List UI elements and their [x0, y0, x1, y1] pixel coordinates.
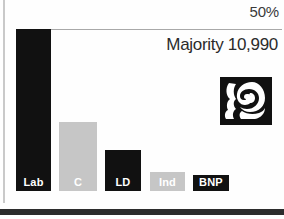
- bar-label-bnp: BNP: [193, 176, 229, 188]
- plot-area: Lab C LD Ind BNP: [0, 0, 284, 191]
- bar-bnp: BNP: [193, 175, 229, 191]
- bar-ind: Ind: [150, 172, 185, 191]
- bar-label-ld: LD: [105, 176, 141, 188]
- bar-c: C: [59, 122, 97, 191]
- bar-ld: LD: [105, 150, 141, 191]
- election-bar-chart: 50% Majority 10,990 Lab C LD Ind BNP: [0, 0, 284, 219]
- bar-lab: Lab: [16, 29, 51, 191]
- bar-label-lab: Lab: [16, 176, 51, 188]
- bottom-margin: [0, 215, 284, 219]
- bar-label-c: C: [59, 176, 97, 188]
- bar-label-ind: Ind: [150, 176, 185, 188]
